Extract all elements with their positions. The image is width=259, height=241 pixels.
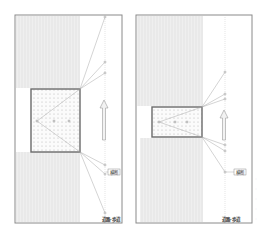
tag-label: 横断 — [110, 169, 119, 176]
diagram-canvas: 横断道路·歩道横断道路·歩道:·:·: — [0, 0, 259, 241]
target-point — [104, 16, 106, 18]
hatched-area — [140, 138, 203, 222]
target-point — [104, 173, 106, 175]
target-point — [224, 71, 226, 73]
footer-label: 道路·歩道 — [222, 216, 241, 223]
origin-point — [186, 121, 188, 123]
side-mark: · — [256, 187, 257, 191]
target-point — [224, 150, 226, 152]
origin-point — [53, 120, 55, 122]
origin-point — [68, 120, 70, 122]
target-point — [224, 171, 226, 173]
footer-label: 道路·歩道 — [102, 216, 121, 223]
hatched-area — [137, 16, 203, 106]
target-point — [104, 212, 106, 214]
target-point — [224, 144, 226, 146]
target-point — [104, 164, 106, 166]
panel-left: 横断道路·歩道 — [15, 15, 122, 223]
panel-right: 横断道路·歩道 — [136, 15, 252, 223]
origin-point — [36, 120, 38, 122]
target-point — [224, 98, 226, 100]
hatched-area — [16, 16, 80, 88]
crossing-tag: 横断 — [106, 169, 120, 176]
side-mark: : — [255, 197, 256, 201]
target-point — [224, 93, 226, 95]
side-mark: : — [255, 177, 256, 181]
origin-point — [158, 121, 160, 123]
origin-point — [174, 121, 176, 123]
target-point — [104, 72, 106, 74]
dotted-area-box — [31, 89, 80, 152]
hatched-area — [16, 152, 80, 222]
tag-label: 横断 — [236, 169, 245, 176]
side-mark: · — [256, 207, 257, 211]
side-mark: : — [255, 217, 256, 221]
target-point — [104, 61, 106, 63]
